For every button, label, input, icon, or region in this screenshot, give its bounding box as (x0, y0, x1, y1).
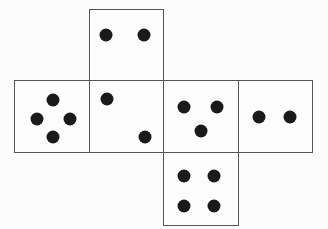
pip-dot (211, 101, 224, 114)
pip-dot (47, 131, 60, 144)
pip-dot (178, 200, 191, 213)
pip-dot (138, 29, 151, 42)
pip-dot (139, 131, 152, 144)
pip-dot (253, 111, 266, 124)
pip-dot (31, 113, 44, 126)
pip-dot (178, 101, 191, 114)
pip-dot (208, 170, 221, 183)
pip-dot (101, 93, 114, 106)
die-face-center-left (89, 80, 164, 153)
pip-dot (178, 170, 191, 183)
die-face-center-right (163, 80, 239, 153)
pip-dot (284, 111, 297, 124)
die-face-top (89, 9, 164, 81)
die-face-left (14, 80, 90, 153)
pip-dot (208, 200, 221, 213)
die-face-bottom (163, 152, 239, 226)
pip-dot (100, 29, 113, 42)
pip-dot (195, 125, 208, 138)
die-face-right (238, 80, 313, 153)
pip-dot (64, 113, 77, 126)
pip-dot (47, 94, 60, 107)
